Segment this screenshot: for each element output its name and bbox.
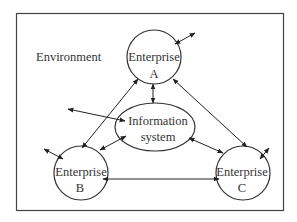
edge-infosys-env xyxy=(68,109,125,121)
enterprise-c-label: Enterprise xyxy=(216,165,268,179)
environment-label: Environment xyxy=(36,50,102,64)
information-system-label: Information xyxy=(128,114,188,128)
information-system-sublabel: system xyxy=(141,130,176,144)
edge-a-c xyxy=(173,79,247,147)
enterprise-c-sublabel: C xyxy=(238,181,246,195)
enterprise-b-sublabel: B xyxy=(76,181,84,195)
edge-b-infosys xyxy=(100,136,126,150)
enterprise-b-label: Enterprise xyxy=(55,165,107,179)
enterprise-a-label: Enterprise xyxy=(128,50,180,64)
edge-a-env xyxy=(175,33,195,44)
diagram-canvas: Environment Enterprise A Information sys… xyxy=(0,0,297,222)
edge-b-env xyxy=(44,149,63,159)
enterprise-a-sublabel: A xyxy=(149,67,158,81)
edge-c-infosys xyxy=(189,138,223,153)
